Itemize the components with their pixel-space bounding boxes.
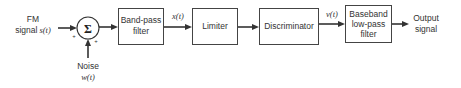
discriminator-label: Discriminator xyxy=(264,21,314,31)
bpf-label-line1: Band-pass xyxy=(121,15,162,25)
bpf-label-line2: filter xyxy=(133,26,149,36)
edge-label-v: v(t) xyxy=(326,9,338,19)
fm-signal-label-line2: signals(t) xyxy=(15,25,51,35)
noise-symbol: w(t) xyxy=(81,72,95,82)
lpf-label-line2: low-pass xyxy=(352,19,386,29)
arrowhead-summer-to-bpf xyxy=(111,24,118,30)
arrowhead-limiter-to-discriminator xyxy=(252,24,259,30)
lpf-label-line3: filter xyxy=(360,29,376,39)
output-label-line1: Output xyxy=(413,13,439,23)
arrowhead-lpf-to-output xyxy=(402,21,409,27)
fm-signal-word: signal xyxy=(15,25,37,35)
output-label-line2: signal xyxy=(415,24,437,34)
fm-signal-symbol: s(t) xyxy=(39,25,51,35)
arrowhead-discriminator-to-lpf xyxy=(338,21,345,27)
edge-label-x: x(t) xyxy=(171,11,184,21)
fm-signal-label-line1: FM xyxy=(27,14,39,24)
limiter-label: Limiter xyxy=(202,21,228,31)
lpf-label-line1: Baseband xyxy=(349,9,388,19)
arrowhead-bpf-to-limiter xyxy=(185,24,192,30)
summer-sign-bottom: + xyxy=(94,38,98,44)
arrowhead-fm-to-summer xyxy=(70,25,77,31)
noise-label: Noise xyxy=(77,61,99,71)
sigma-icon: Σ xyxy=(84,22,92,36)
arrowhead-noise-to-summer xyxy=(85,39,91,46)
summer-sign-left: + xyxy=(72,33,76,39)
fm-receiver-diagram: FM signals(t) Σ + + Noise w(t) Band-pass… xyxy=(0,0,461,88)
